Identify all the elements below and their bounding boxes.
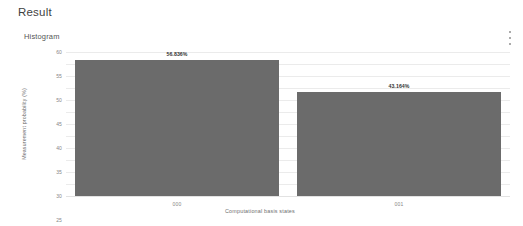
bar[interactable]: 43.164%001	[297, 92, 501, 196]
histogram-chart: Measurement probability (%) 605550454035…	[0, 0, 523, 226]
x-axis-tick-label: 001	[395, 201, 404, 207]
y-axis-tick-label: 55	[56, 73, 62, 79]
y-axis-tick-label: 30	[56, 193, 62, 199]
y-axis-tick-label: 45	[56, 121, 62, 127]
y-axis-tick-label: 50	[56, 97, 62, 103]
y-axis-tick-label: 60	[56, 49, 62, 55]
gridline: 0	[66, 196, 510, 197]
y-axis-tick-label: 35	[56, 169, 62, 175]
y-axis-tick-label: 40	[56, 145, 62, 151]
plot-area: 605550454035302520151050 56.836%00043.16…	[66, 52, 510, 196]
bar-value-label: 56.836%	[166, 51, 187, 57]
x-axis-tick-label: 000	[173, 201, 182, 207]
result-card: Result Histogram Measurement probability…	[0, 0, 523, 226]
bars-layer: 56.836%00043.164%001	[66, 52, 510, 196]
y-axis-title: Measurement probability (%)	[21, 88, 27, 160]
x-axis-title: Computational basis states	[66, 208, 454, 214]
y-axis-tick-label: 25	[56, 217, 62, 223]
bar-value-label: 43.164%	[388, 83, 409, 89]
bar[interactable]: 56.836%000	[75, 60, 279, 196]
